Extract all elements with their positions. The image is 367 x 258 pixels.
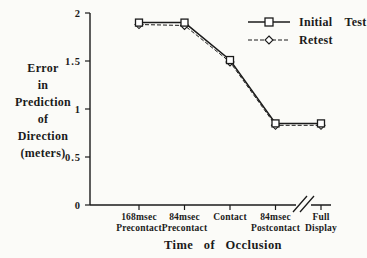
initial-test-line-marker-icon [247,15,291,29]
initial-test-square-marker [318,120,325,127]
y-tick-label: 0 [75,200,81,211]
initial-test-square-marker [181,19,188,26]
axis-break-icon [293,196,314,212]
y-axis-title-line: Prediction [6,94,80,111]
initial-test-square-marker [136,19,143,26]
x-category-label: 84msec [169,212,200,222]
y-axis-title: Error in Prediction of Direction (meters… [6,60,80,162]
x-category-label: 84msec [260,212,291,222]
x-category-label: Postcontact [251,223,301,233]
legend-item-retest: Retest [247,31,367,49]
y-axis-title-line: (meters) [6,145,80,162]
x-category-label: Full [312,212,329,222]
x-category-label: Precontact [116,223,162,233]
legend-item-initial-test: Initial Test [247,13,367,31]
legend: Initial Test Retest [247,13,367,49]
x-axis-title: Time of Occlusion [128,238,318,253]
y-axis-title-line: Error [6,60,80,77]
legend-label-initial-test: Initial Test [299,15,367,30]
x-category-label: Contact [213,212,247,222]
y-axis-title-line: Direction [6,128,80,145]
y-tick-label: 2 [75,8,81,19]
initial-test-square-marker [272,120,279,127]
legend-label-retest: Retest [299,33,333,48]
y-axis-title-line: of [6,111,80,128]
retest-line-marker-icon [247,33,291,47]
x-category-label: Precontact [162,223,208,233]
x-category-label: 168msec [121,212,157,222]
x-category-label: Display [305,223,337,233]
y-axis-title-line: in [6,77,80,94]
initial-test-square-marker [227,57,234,64]
